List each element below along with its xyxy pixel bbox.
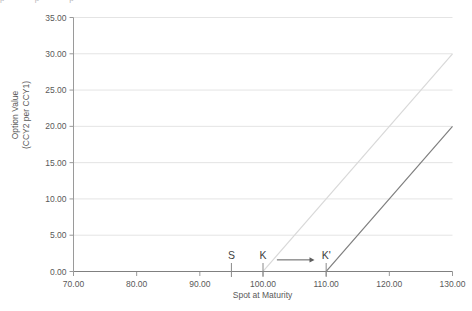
y-tick-label-30-00: 30.00: [27, 49, 67, 59]
gridlines: [74, 18, 453, 272]
x-axis-title: Spot at Maturity: [73, 290, 452, 300]
plot-area: [0, 0, 472, 311]
y-tick-label-0-00: 0.00: [27, 267, 67, 277]
y-tick-label-25-00: 25.00: [27, 85, 67, 95]
strike-marker-label: K: [248, 250, 278, 261]
x-tick-label-90-00: 90.00: [175, 279, 225, 289]
y-tick-label-35-00: 35.00: [27, 13, 67, 23]
clipped-caption-artifact: p p p: [0, 0, 472, 4]
y-tick-label-5-00: 5.00: [27, 230, 67, 240]
axis-tick-marks: [70, 18, 453, 277]
y-tick-label-20-00: 20.00: [27, 121, 67, 131]
clipped-caption-text: p p p: [0, 0, 88, 3]
x-tick-label-80-00: 80.00: [112, 279, 162, 289]
x-tick-label-120-00: 120.00: [364, 279, 414, 289]
x-tick-label-100-00: 100.00: [238, 279, 288, 289]
y-axis-title-line1: Option Value: [10, 50, 21, 180]
x-tick-label-110-00: 110.00: [301, 279, 351, 289]
y-tick-label-10-00: 10.00: [27, 194, 67, 204]
x-tick-label-70-00: 70.00: [49, 279, 99, 289]
x-tick-label-130-00: 130.00: [428, 279, 472, 289]
spot-marker-label: S: [216, 250, 246, 261]
y-tick-label-15-00: 15.00: [27, 158, 67, 168]
payoff-chart: p p p Option Value (CCY2 per CCY1) Spot …: [0, 0, 472, 311]
shifted-strike-marker-label: K': [311, 250, 341, 261]
